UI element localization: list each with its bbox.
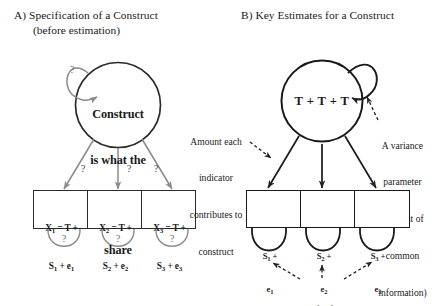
panel-b-title: B) Key Estimates for a Construct: [241, 9, 394, 22]
indicator-box-b-1: [246, 190, 302, 228]
variance-annotation-line-2: parameter: [366, 176, 439, 188]
construct-circle-b-label: T + T + T: [272, 94, 372, 108]
indicator-box-a-1: X1 = T + S1 + e1: [33, 190, 88, 229]
loading-annotation-line-1: Amount each: [180, 136, 252, 148]
indicator-box-a-2-text: X2 = T + S2 + e2: [88, 197, 143, 297]
panel-a-title: A) Specification of a Construct: [14, 9, 158, 22]
indicator-box-b-3: [354, 190, 410, 228]
loading-label-a-3: ?: [150, 163, 162, 175]
indicator-box-a-2: X2 = T + S2 + e2: [87, 190, 142, 229]
residual-label-a-3: ?: [166, 233, 178, 245]
loading-arrow-b-1: [268, 136, 299, 188]
construct-diagram-figure: A) Specification of a Construct (before …: [0, 0, 439, 306]
residual-annotation: Amount of information unique to each ind…: [248, 278, 396, 306]
loading-label-a-2: ?: [123, 163, 135, 175]
loading-annotation: Amount each indicator contributes to con…: [180, 111, 252, 283]
indicator-box-b-2: [300, 190, 356, 228]
residual-label-a-1: ?: [58, 233, 70, 245]
loading-label-a-1: ?: [77, 163, 89, 175]
indicator-box-a-1-text: X1 = T + S1 + e1: [34, 197, 89, 297]
loading-annotation-line-3: contributes to: [180, 209, 252, 221]
loading-annotation-line-4: construct: [180, 246, 252, 258]
loading-callout-line: [250, 142, 271, 158]
variance-loop-a-label: ?: [66, 64, 78, 76]
residual-label-a-2: ?: [112, 233, 124, 245]
panel-a-subtitle: (before estimation): [33, 24, 120, 37]
loading-annotation-line-2: indicator: [180, 172, 252, 184]
variance-annotation-line-1: A variance: [366, 140, 439, 152]
construct-line-1: Construct: [68, 107, 168, 122]
